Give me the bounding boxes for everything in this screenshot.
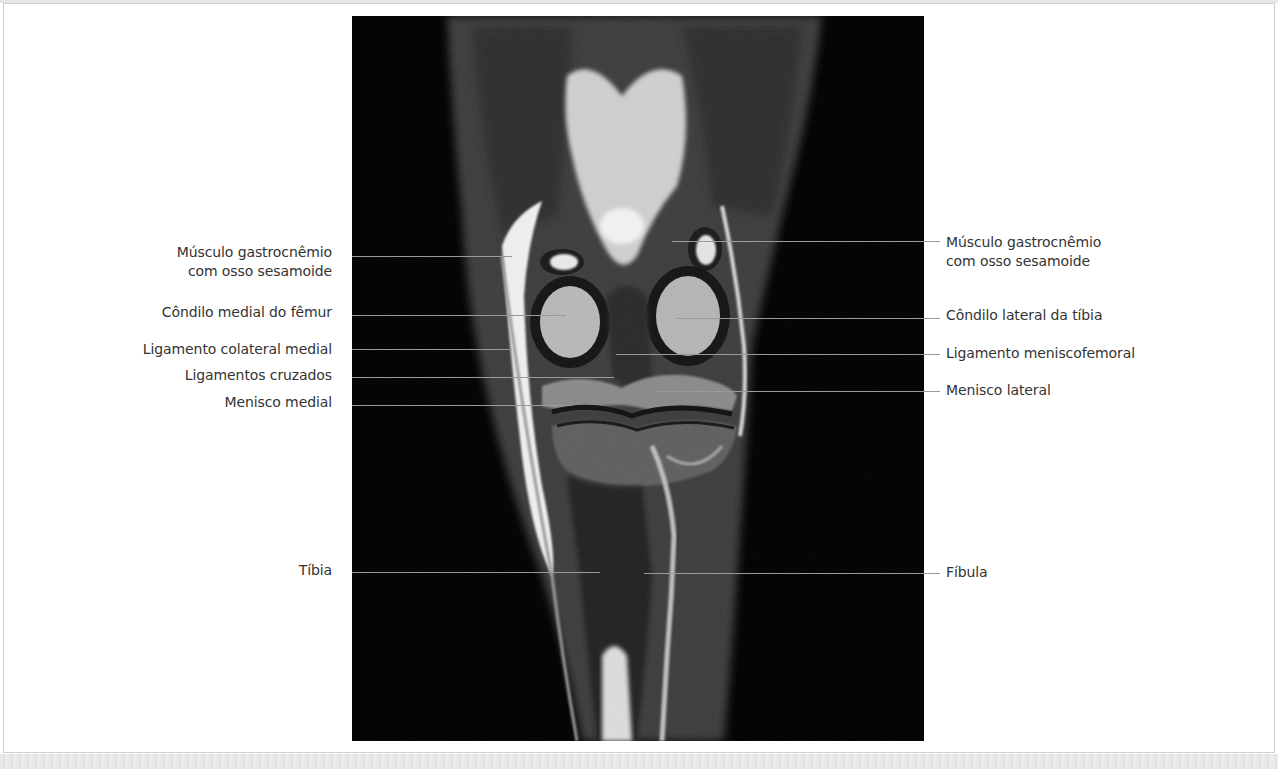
label-lig-meniscofemoral: Ligamento meniscofemoral: [946, 344, 1135, 363]
label-condilo-lateral-tibia: Côndilo lateral da tíbia: [946, 306, 1102, 325]
label-line: com osso sesamoide: [177, 262, 332, 281]
label-menisco-lateral: Menisco lateral: [946, 381, 1051, 400]
leader-fibula: [644, 573, 940, 574]
label-lig-cruzados: Ligamentos cruzados: [185, 366, 332, 385]
label-line: Menisco medial: [224, 393, 332, 412]
label-fibula: Fíbula: [946, 563, 988, 582]
knee-mri-image: [352, 16, 924, 741]
label-line: Tíbia: [299, 561, 332, 580]
leader-lig-colateral-medial: [352, 349, 512, 350]
label-line: Menisco lateral: [946, 381, 1051, 400]
label-tibia: Tíbia: [299, 561, 332, 580]
leader-lig-meniscofemoral: [616, 354, 940, 355]
label-lig-colateral-medial: Ligamento colateral medial: [143, 340, 332, 359]
label-line: Côndilo medial do fêmur: [162, 303, 332, 322]
label-gastro-medial: Músculo gastrocnêmio com osso sesamoide: [177, 243, 332, 281]
page-bottom-edge: [0, 754, 1278, 769]
label-line: Ligamento meniscofemoral: [946, 344, 1135, 363]
leader-condilo-medial-femur: [352, 315, 566, 316]
leader-gastro-lateral: [672, 241, 940, 242]
label-line: Fíbula: [946, 563, 988, 582]
label-line: com osso sesamoide: [946, 252, 1101, 271]
label-line: Ligamento colateral medial: [143, 340, 332, 359]
label-line: Côndilo lateral da tíbia: [946, 306, 1102, 325]
label-line: Músculo gastrocnêmio: [946, 233, 1101, 252]
leader-menisco-medial: [352, 405, 572, 406]
label-line: Músculo gastrocnêmio: [177, 243, 332, 262]
leader-menisco-lateral: [656, 391, 940, 392]
leader-condilo-lateral-tibia: [676, 318, 940, 319]
leader-gastro-medial: [352, 256, 512, 257]
label-condilo-medial-femur: Côndilo medial do fêmur: [162, 303, 332, 322]
label-menisco-medial: Menisco medial: [224, 393, 332, 412]
label-line: Ligamentos cruzados: [185, 366, 332, 385]
leader-lig-cruzados: [352, 377, 614, 378]
label-gastro-lateral: Músculo gastrocnêmio com osso sesamoide: [946, 233, 1101, 271]
leader-tibia: [352, 572, 600, 573]
